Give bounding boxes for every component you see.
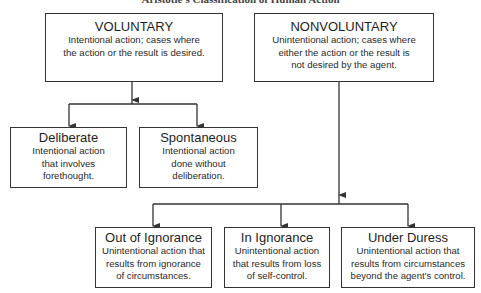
node-heading: Under Duress <box>342 231 474 245</box>
node-deliberate: Deliberate Intentional action that invol… <box>10 127 127 188</box>
node-heading: NONVOLUNTARY <box>255 20 433 34</box>
node-heading: Deliberate <box>11 131 126 145</box>
node-description: Intentional action done without delibera… <box>140 145 257 183</box>
node-heading: Out of Ignorance <box>96 231 211 245</box>
node-description: Unintentional action that results from c… <box>342 245 474 283</box>
node-description: Intentional action; cases where the acti… <box>46 34 222 59</box>
node-heading: VOLUNTARY <box>46 20 222 34</box>
node-heading: Spontaneous <box>140 131 257 145</box>
node-spontaneous: Spontaneous Intentional action done with… <box>139 127 258 188</box>
node-voluntary: VOLUNTARY Intentional action; cases wher… <box>45 13 223 82</box>
node-description: Intentional action that involves foretho… <box>11 145 126 183</box>
node-under-duress: Under Duress Unintentional action that r… <box>341 227 475 288</box>
node-in-ignorance: In Ignorance Unintentional action that r… <box>224 227 330 288</box>
node-nonvoluntary: NONVOLUNTARY Unintentional action; cases… <box>254 13 434 82</box>
node-description: Unintentional action; cases where either… <box>255 34 433 72</box>
node-description: Unintentional action that results from i… <box>96 245 211 283</box>
node-description: Unintentional action that results from l… <box>225 245 329 283</box>
node-out-of-ignorance: Out of Ignorance Unintentional action th… <box>95 227 212 288</box>
node-heading: In Ignorance <box>225 231 329 245</box>
